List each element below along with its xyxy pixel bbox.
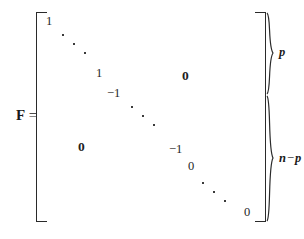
brace-lower-icon	[266, 95, 276, 222]
matrix-symbol-f: F	[16, 107, 26, 123]
zero-block-upper-right: 0	[182, 69, 189, 83]
matrix-body: 1 1 −1 −1 0 0 0 0	[36, 12, 266, 222]
matrix-diagonal-entry: −1	[107, 87, 120, 100]
matrix-diagonal-entry: −1	[169, 143, 182, 156]
partition-brace-upper	[266, 12, 276, 95]
partition-label-p2: p	[295, 151, 301, 165]
matrix-diagonal-entry: 0	[188, 160, 194, 173]
partition-label-p: p	[279, 45, 285, 60]
matrix-diagonal-entry: 0	[244, 206, 250, 219]
partition-brace-lower	[266, 95, 276, 222]
equation-left-hand-side: F=	[16, 108, 37, 123]
partition-label-n: n	[279, 151, 286, 165]
diagonal-ellipsis-icon	[202, 182, 203, 183]
minus-sign: −	[287, 151, 294, 165]
partition-label-n-minus-p: n−p	[279, 151, 301, 166]
matrix-diagonal-entry: 1	[96, 67, 102, 80]
zero-block-lower-left: 0	[78, 140, 85, 154]
partition-label-p-text: p	[279, 45, 285, 59]
diagonal-ellipsis-icon	[62, 34, 63, 35]
figure-canvas: F= 1 1 −1 −1 0 0 0 0	[0, 0, 304, 239]
matrix-diagonal-entry: 1	[46, 15, 52, 28]
diagonal-ellipsis-icon	[131, 106, 132, 107]
brace-upper-icon	[266, 12, 276, 95]
